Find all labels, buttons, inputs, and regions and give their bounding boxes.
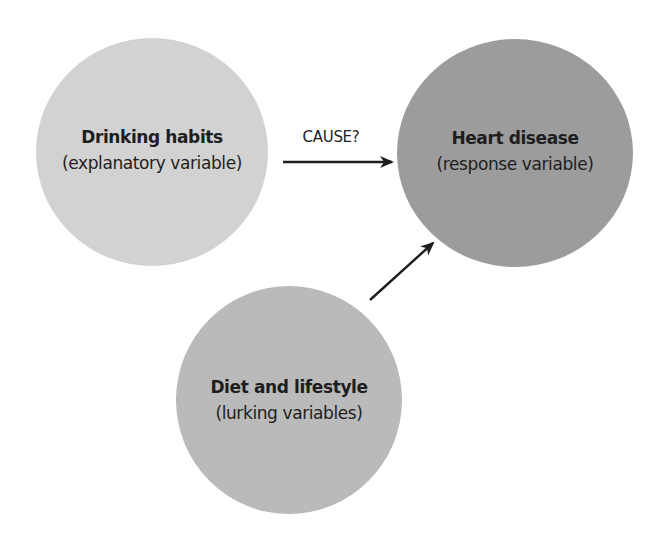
node-lurking-variables: Diet and lifestyle (lurking variables) — [176, 286, 402, 514]
lurking-arrow — [370, 243, 433, 300]
node-explanatory-variable: Drinking habits (explanatory variable) — [36, 38, 268, 266]
node-title: Heart disease — [437, 125, 594, 151]
node-subtitle: (response variable) — [437, 151, 594, 177]
causation-diagram: Drinking habits (explanatory variable) C… — [0, 0, 663, 537]
node-explanatory-text: Drinking habits (explanatory variable) — [62, 124, 242, 176]
node-title: Diet and lifestyle — [210, 374, 367, 400]
node-subtitle: (explanatory variable) — [62, 150, 242, 176]
node-title: Drinking habits — [62, 124, 242, 150]
node-response-variable: Heart disease (response variable) — [397, 39, 633, 267]
node-subtitle: (lurking variables) — [210, 400, 367, 426]
cause-edge-label: CAUSE? — [290, 128, 372, 146]
node-lurking-text: Diet and lifestyle (lurking variables) — [210, 374, 367, 426]
node-response-text: Heart disease (response variable) — [437, 125, 594, 177]
